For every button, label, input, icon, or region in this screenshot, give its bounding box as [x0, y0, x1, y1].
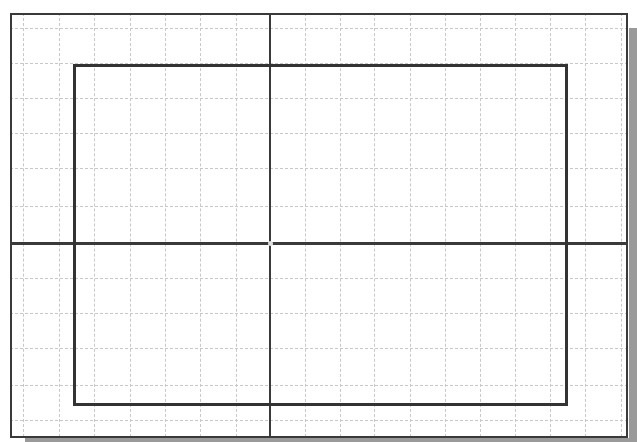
sketch-canvas[interactable] — [0, 0, 637, 442]
origin-point-icon — [268, 241, 273, 246]
drawing-frame — [10, 13, 628, 438]
frame-shadow-bottom — [25, 438, 637, 442]
frame-shadow-right — [629, 28, 637, 442]
